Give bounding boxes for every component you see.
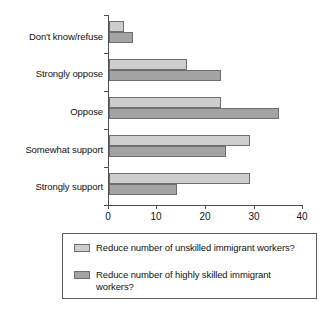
bar-strongly-oppose-highly-skilled	[109, 70, 221, 81]
y-axis-label-dont-know-refuse: Don't know/refuse	[0, 32, 103, 42]
y-axis-label-strongly-support: Strongly support	[0, 182, 103, 192]
x-axis-tick-label-0: 0	[96, 211, 120, 222]
bar-oppose-highly-skilled	[109, 108, 279, 119]
x-axis-tick-label-20: 20	[193, 211, 217, 222]
y-axis-tick	[104, 15, 108, 16]
bar-oppose-unskilled	[109, 97, 221, 108]
legend-item-unskilled: Reduce number of unskilled immigrant wor…	[74, 242, 310, 254]
legend-label-unskilled: Reduce number of unskilled immigrant wor…	[96, 242, 295, 254]
bar-strongly-support-unskilled	[109, 173, 250, 184]
legend-label-highly-skilled: Reduce number of highly skilled immigran…	[96, 269, 310, 293]
x-axis-tick-label-30: 30	[242, 211, 266, 222]
bar-chart: Don't know/refuse Strongly oppose Oppose…	[0, 0, 331, 312]
x-axis-tick	[156, 205, 157, 209]
x-axis-tick-label-10: 10	[144, 211, 168, 222]
y-axis-label-strongly-oppose: Strongly oppose	[0, 69, 103, 79]
y-axis-category-labels: Don't know/refuse Strongly oppose Oppose…	[0, 15, 103, 205]
y-axis-tick	[104, 53, 108, 54]
bar-dont-know-refuse-unskilled	[109, 21, 124, 32]
x-axis-tick	[254, 205, 255, 209]
x-axis-tick	[302, 205, 303, 209]
x-axis-tick-label-40: 40	[290, 211, 314, 222]
bar-dont-know-refuse-highly-skilled	[109, 32, 133, 43]
plot-area: 0 10 20 30 40	[108, 15, 318, 205]
x-axis-tick	[205, 205, 206, 209]
legend-swatch-highly-skilled-icon	[74, 271, 90, 279]
bar-strongly-support-highly-skilled	[109, 184, 177, 195]
bar-somewhat-support-highly-skilled	[109, 146, 226, 157]
bar-strongly-oppose-unskilled	[109, 59, 187, 70]
x-axis-tick	[108, 205, 109, 209]
y-axis-tick	[104, 167, 108, 168]
y-axis-label-oppose: Oppose	[0, 107, 103, 117]
y-axis-tick	[104, 129, 108, 130]
y-axis-tick	[104, 91, 108, 92]
y-axis-label-somewhat-support: Somewhat support	[0, 145, 103, 155]
legend-swatch-unskilled-icon	[74, 244, 90, 252]
bar-somewhat-support-unskilled	[109, 135, 250, 146]
legend-item-highly-skilled: Reduce number of highly skilled immigran…	[74, 269, 310, 293]
chart-legend: Reduce number of unskilled immigrant wor…	[62, 233, 317, 299]
